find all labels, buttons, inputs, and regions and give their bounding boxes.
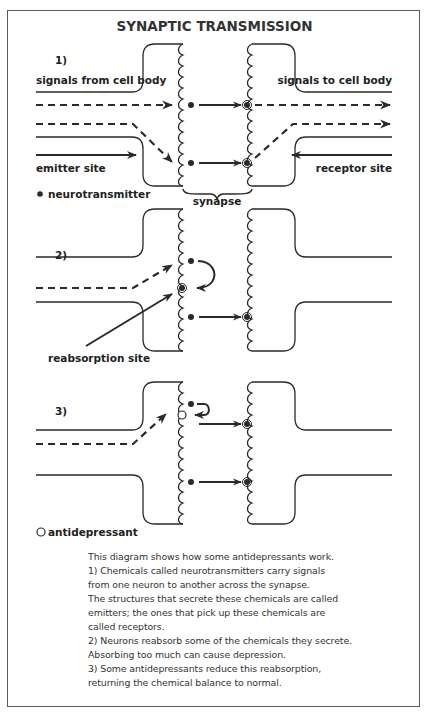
reabsorption-arrow — [197, 261, 214, 288]
neurotransmitter-dot — [188, 102, 194, 108]
antidepressant-legend-icon — [37, 528, 45, 536]
neurotransmitter-dot — [244, 102, 250, 108]
legend-antidepressant: antidepressant — [48, 526, 138, 538]
panel-3: 3) antidepressant — [36, 382, 392, 538]
caption-line: returning the chemical balance to normal… — [88, 676, 418, 690]
neurotransmitter-dot — [188, 160, 194, 166]
caption-line: 1) Chemicals called neurotransmitters ca… — [88, 564, 418, 578]
signal-arrow — [255, 124, 390, 158]
label-signals-to-cell-body: signals to cell body — [277, 74, 392, 86]
neurotransmitter-dot — [244, 314, 250, 320]
caption-line: 3) Some antidepressants reduce this reab… — [88, 662, 418, 676]
panel-number: 2) — [55, 249, 67, 261]
caption-line: called receptors. — [88, 620, 418, 634]
neurotransmitter-dot — [244, 160, 250, 166]
signal-arrow — [36, 124, 172, 162]
caption: This diagram shows how some antidepressa… — [88, 550, 418, 690]
caption-line: This diagram shows how some antidepressa… — [88, 550, 418, 564]
label-synapse: synapse — [193, 195, 242, 207]
caption-line: 2) Neurons reabsorb some of the chemical… — [88, 634, 418, 648]
neurotransmitter-dot — [188, 258, 194, 264]
label-reabsorption-site: reabsorption site — [48, 352, 150, 364]
label-emitter-site: emitter site — [36, 162, 106, 174]
neurotransmitter-dot — [188, 314, 194, 320]
panel-number: 1) — [55, 54, 67, 66]
signal-arrow — [36, 265, 172, 288]
neurotransmitter-dot — [244, 479, 250, 485]
caption-line: The structures that secrete these chemic… — [88, 592, 418, 606]
antidepressant-circle — [178, 411, 186, 419]
diagram-title: SYNAPTIC TRANSMISSION — [116, 18, 312, 34]
neurotransmitter-dot — [244, 421, 250, 427]
signal-arrow — [36, 414, 166, 444]
label-signals-from-cell-body: signals from cell body — [36, 74, 166, 86]
legend-neurotransmitter: neurotransmitter — [48, 188, 151, 200]
neurotransmitter-dot — [188, 479, 194, 485]
reabsorption-arrow — [195, 404, 209, 415]
label-receptor-site: receptor site — [316, 162, 392, 174]
reabsorbed-neurotransmitter — [179, 285, 185, 291]
caption-line: Absorbing too much can cause depression. — [88, 648, 418, 662]
panel-1: 1) signals from cell body signals to cel… — [36, 44, 392, 207]
panel-2: 2) reabsorption site — [36, 209, 392, 364]
neurotransmitter-legend-icon — [37, 191, 43, 197]
caption-line: from one neuron to another across the sy… — [88, 578, 418, 592]
neurotransmitter-dot — [188, 401, 194, 407]
caption-line: emitters; the ones that pick up these ch… — [88, 606, 418, 620]
panel-number: 3) — [55, 405, 67, 417]
